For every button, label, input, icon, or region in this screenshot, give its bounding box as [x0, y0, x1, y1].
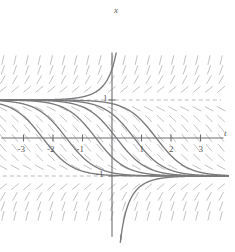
x-tick-label: 2	[169, 144, 174, 154]
y-tick-label: 1	[103, 93, 108, 103]
y-axis-label: x	[114, 5, 118, 15]
x-tick-label: -2	[47, 144, 55, 154]
x-axis-label: t	[224, 128, 227, 138]
slope-field-plot	[0, 0, 235, 252]
x-tick-label: -1	[77, 144, 85, 154]
x-tick-label: 3	[199, 144, 204, 154]
y-tick-label: -1	[96, 169, 104, 179]
coordinate-axes	[1, 53, 223, 237]
figure-slope-field: x t -3-2-11231-1	[0, 0, 235, 252]
solution-curves	[0, 53, 228, 242]
x-tick-label: 1	[140, 144, 145, 154]
x-tick-label: -3	[18, 144, 26, 154]
